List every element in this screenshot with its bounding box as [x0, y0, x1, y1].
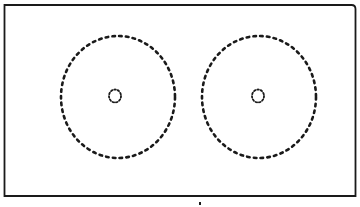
background	[0, 0, 360, 207]
bottom-tick-mark	[199, 202, 201, 205]
figure-canvas	[0, 0, 360, 207]
